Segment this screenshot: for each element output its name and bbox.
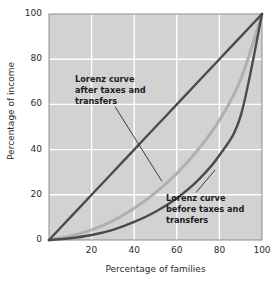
annotation-line: transfers <box>75 96 146 107</box>
x-axis-tick-label: 20 <box>77 245 107 255</box>
annotation-line: after taxes and <box>75 85 146 96</box>
y-axis-tick-label: 80 <box>8 53 42 63</box>
y-axis-tick-label: 100 <box>8 8 42 18</box>
y-axis-label: Percentage of income <box>6 46 16 176</box>
x-axis-tick-label: 40 <box>119 245 149 255</box>
y-axis-tick-label: 0 <box>8 234 42 244</box>
annotation-line: Lorenz curve <box>75 74 146 85</box>
annotation-after-taxes: Lorenz curveafter taxes andtransfers <box>75 74 146 108</box>
x-axis-tick-label: 100 <box>247 245 277 255</box>
y-axis-tick-label: 20 <box>8 189 42 199</box>
x-axis-tick-label: 60 <box>162 245 192 255</box>
x-axis-label: Percentage of families <box>49 264 262 274</box>
x-axis-tick-label: 80 <box>204 245 234 255</box>
annotation-line: Lorenz curve <box>166 193 244 204</box>
y-axis-tick-label: 40 <box>8 144 42 154</box>
y-axis-tick-label: 60 <box>8 98 42 108</box>
lorenz-curve-chart: Percentage of income Percentage of famil… <box>0 0 277 286</box>
annotation-line: transfers <box>166 215 244 226</box>
annotation-line: before taxes and <box>166 204 244 215</box>
annotation-before-taxes: Lorenz curvebefore taxes andtransfers <box>166 193 244 227</box>
